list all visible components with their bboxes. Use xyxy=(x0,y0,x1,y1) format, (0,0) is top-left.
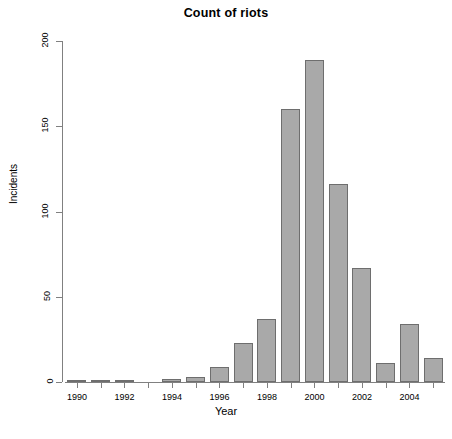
x-axis-tick-label: 2004 xyxy=(389,392,429,402)
x-axis-tick xyxy=(148,382,149,388)
y-axis-tick xyxy=(56,126,62,127)
y-axis-tick xyxy=(56,382,62,383)
bar xyxy=(424,358,443,382)
x-axis-tick xyxy=(433,382,434,388)
x-axis-tick xyxy=(338,382,339,388)
x-axis-tick xyxy=(124,382,125,388)
x-axis-tick-label: 2002 xyxy=(342,392,382,402)
x-axis-tick xyxy=(77,382,78,388)
bar xyxy=(257,319,276,382)
x-axis-tick-label: 1990 xyxy=(57,392,97,402)
x-axis-tick xyxy=(172,382,173,388)
x-axis-tick xyxy=(243,382,244,388)
x-axis-tick-label: 1996 xyxy=(199,392,239,402)
x-axis-tick-label: 1998 xyxy=(247,392,287,402)
y-axis-tick-label: 0 xyxy=(0,376,52,386)
x-axis-tick xyxy=(362,382,363,388)
bar xyxy=(281,109,300,382)
y-axis-tick-label: 100 xyxy=(0,206,52,216)
bar xyxy=(234,343,253,382)
x-axis-tick-label: 2000 xyxy=(294,392,334,402)
x-axis-tick-label: 1994 xyxy=(152,392,192,402)
bar xyxy=(305,60,324,382)
x-axis-tick xyxy=(267,382,268,388)
bar xyxy=(210,367,229,382)
x-axis-tick xyxy=(219,382,220,388)
plot-area: 0501001502001990199219941996199820002002… xyxy=(0,0,452,439)
y-axis-tick-label: 150 xyxy=(0,120,52,130)
y-axis-line xyxy=(62,41,63,382)
chart-container: Count of riots Incidents Year 0501001502… xyxy=(0,0,452,439)
x-axis-tick xyxy=(386,382,387,388)
x-axis-tick xyxy=(196,382,197,388)
x-axis-tick-label: 1992 xyxy=(104,392,144,402)
x-axis-tick xyxy=(291,382,292,388)
bar xyxy=(376,363,395,382)
y-axis-tick xyxy=(56,41,62,42)
y-axis-tick-label: 50 xyxy=(0,291,52,301)
y-axis-tick xyxy=(56,212,62,213)
bar xyxy=(352,268,371,382)
x-axis-tick xyxy=(314,382,315,388)
y-axis-tick-label: 200 xyxy=(0,35,52,45)
x-axis-tick xyxy=(409,382,410,388)
y-axis-tick xyxy=(56,297,62,298)
bar xyxy=(400,324,419,382)
x-axis-tick xyxy=(101,382,102,388)
bar xyxy=(329,184,348,382)
